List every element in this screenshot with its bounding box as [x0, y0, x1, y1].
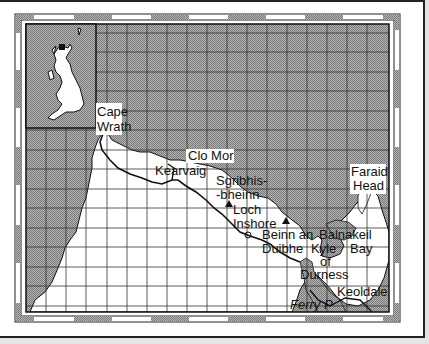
location-marker: [59, 44, 65, 50]
label-balnakeil-2: Bay: [350, 241, 373, 256]
label-ferry: Ferry P: [290, 297, 333, 312]
label-kearvaig: Kearvaig: [155, 163, 206, 178]
label-clo-mor: Clo Mor: [188, 148, 234, 163]
label-sgribhis-2: -bheinn: [216, 187, 259, 202]
label-cape-wrath-2: Wrath: [97, 119, 131, 134]
label-faraid-2: Head: [353, 178, 384, 193]
label-faraid-1: Faraid: [351, 164, 388, 179]
label-keoldale: Keoldale: [337, 284, 388, 299]
label-cape-wrath-1: Cape: [97, 104, 128, 119]
map-figure: Cape Wrath Clo Mor Kearvaig Sgribhis- -b…: [0, 0, 429, 344]
label-beinn-1: Beinn an: [262, 227, 313, 242]
label-balnakeil-1: Balnakeil: [319, 227, 372, 242]
uk-inset-map: [26, 24, 96, 128]
label-kyle-3: Durness: [300, 267, 349, 282]
label-sgribhis-1: Sgribhis-: [216, 173, 267, 188]
label-beinn-2: Duibhe: [262, 241, 303, 256]
label-loch-1: Loch: [233, 202, 261, 217]
